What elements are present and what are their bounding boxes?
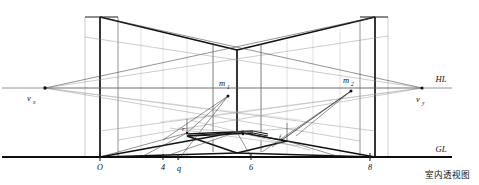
figure-caption: 室内透视图 bbox=[425, 169, 470, 180]
room-shell bbox=[85, 17, 388, 157]
measuring-point-m1-subscript: 1 bbox=[227, 84, 230, 90]
perspective-drawing-canvas: HL GL v x v y m 1 m 2 O 4 q 6 8 r e f 室内… bbox=[0, 0, 479, 185]
horizon-line-label: HL bbox=[435, 74, 447, 84]
vanishing-point-vx-subscript: x bbox=[32, 99, 36, 105]
vanishing-rays bbox=[45, 17, 422, 141]
interior-point-r-dot bbox=[186, 132, 188, 134]
ground-mark-label-8: 8 bbox=[368, 163, 372, 172]
ground-mark-label-o: O bbox=[97, 163, 103, 172]
vanishing-point-vy-dot bbox=[420, 86, 423, 89]
interior-point-label-r: r bbox=[182, 125, 185, 132]
measuring-point-m1-dot bbox=[227, 95, 230, 98]
perspective-drawing-figure: HL GL v x v y m 1 m 2 O 4 q 6 8 r e f 室内… bbox=[0, 0, 479, 185]
vanishing-point-vy-label: v bbox=[416, 94, 420, 104]
ground-line-label: GL bbox=[436, 144, 447, 154]
vanishing-point-vy-subscript: y bbox=[421, 100, 425, 106]
measuring-point-m2-subscript: 2 bbox=[351, 81, 354, 87]
interior-point-label-e: e bbox=[241, 127, 244, 134]
measuring-point-m2-dot bbox=[350, 90, 353, 93]
measuring-point-m2-label: m bbox=[343, 75, 349, 85]
ground-mark-label-6: 6 bbox=[249, 163, 254, 172]
vanishing-point-vx-label: v bbox=[27, 93, 31, 103]
floor-diagonals bbox=[100, 120, 340, 157]
ground-mark-label-4: 4 bbox=[161, 163, 165, 172]
measuring-point-m1-label: m bbox=[219, 78, 225, 88]
interior-point-f-dot bbox=[281, 139, 283, 141]
ground-mark-label-q: q bbox=[177, 164, 181, 173]
vanishing-point-vx-dot bbox=[43, 86, 46, 89]
